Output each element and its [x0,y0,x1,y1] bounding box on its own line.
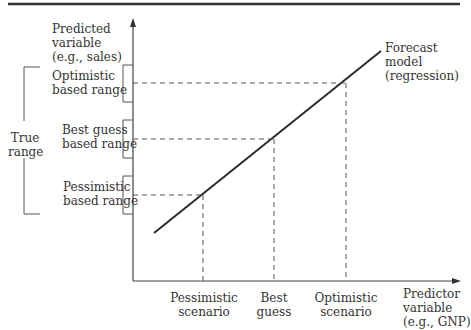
forecast-model-label: Forecast model (regression) [385,41,459,83]
y-axis-label: Predicted variable (e.g., sales) [52,22,122,64]
true-range-label: True range [8,131,42,159]
pessimistic-range-label: Pessimistic based range [63,180,138,208]
x-axis-arrow-icon [452,278,461,284]
pessimistic-scenario-label: Pessimistic scenario [168,291,240,319]
best-guess-scenario-label: Best guess [250,291,298,319]
optimistic-scenario-label: Optimistic scenario [310,291,382,319]
forecast-model-line [154,51,381,233]
y-axis-arrow-icon [130,18,136,27]
best-guess-range-label: Best guess based range [62,123,137,151]
x-axis-label: Predictor variable (e.g., GNP) [403,287,471,329]
optimistic-range-label: Optimistic based range [52,69,127,97]
projection-lines [133,83,346,281]
